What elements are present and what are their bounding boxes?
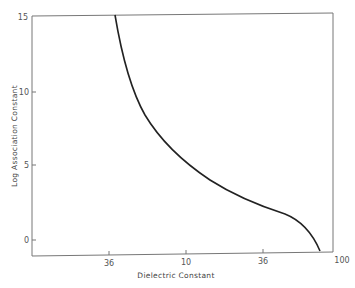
y-tick-labels: 15 10 5 0 [18,13,29,245]
y-ticks [32,92,36,240]
plot-frame [32,13,333,256]
y-tick-10: 10 [19,88,29,97]
x-tick-36b: 36 [258,257,268,266]
x-tick-100: 100 [334,256,349,265]
y-tick-0: 0 [24,236,29,245]
y-axis-title: Log Association Constant [10,85,19,187]
y-tick-15: 15 [18,13,28,22]
chart: 15 10 5 0 36 10 36 100 Dielectric Consta… [0,0,355,288]
data-curve [115,15,320,251]
x-tick-10: 10 [181,258,191,267]
x-tick-36a: 36 [104,259,114,268]
x-tick-labels: 36 10 36 100 [104,256,350,268]
y-tick-5: 5 [24,161,29,170]
x-axis-title: Dielectric Constant [137,271,214,280]
